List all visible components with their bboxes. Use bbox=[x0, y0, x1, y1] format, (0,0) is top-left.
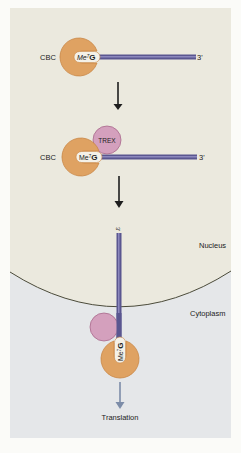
step1-cap-text: Me7G bbox=[77, 53, 95, 62]
step2-trex-label: TREX bbox=[98, 137, 116, 144]
step2-cap-text: Me7G bbox=[79, 153, 97, 162]
cytoplasm-label: Cytoplasm bbox=[190, 309, 225, 318]
step3-three-prime: 3' bbox=[115, 227, 121, 231]
translation-label: Translation bbox=[102, 413, 139, 422]
step1-cbc-label: CBC bbox=[40, 53, 56, 62]
step2-three-prime: 3' bbox=[199, 153, 205, 162]
step2-mrna-highlight bbox=[100, 156, 197, 158]
nucleus-label: Nucleus bbox=[199, 241, 226, 250]
step2-cbc-label: CBC bbox=[40, 153, 56, 162]
step1-three-prime: 3' bbox=[197, 53, 203, 62]
step3-trex-protein bbox=[90, 313, 118, 341]
step3-cap-text: Me7G bbox=[116, 343, 125, 361]
mrna-export-diagram: CBC Me7G 3' CBC TREX Me7G 3' bbox=[0, 0, 241, 453]
step1-mrna-highlight bbox=[98, 56, 196, 58]
